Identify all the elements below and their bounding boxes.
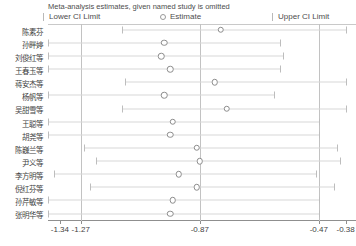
estimate-marker — [176, 171, 183, 178]
upper-ci-cap — [334, 184, 335, 191]
study-label-column: 陈素芬孙畔婷刘俊红等王春玉等蒋安杰等杨帆等吴甜雪等王聪等胡尧等陈巍兰等尹义等李方… — [0, 24, 46, 221]
plot-row — [48, 50, 356, 62]
estimate-marker — [167, 66, 174, 73]
upper-ci-cap — [337, 144, 338, 151]
axis-tick-label: -0.47 — [310, 225, 328, 234]
tick-marker-icon — [43, 13, 44, 21]
forest-plot-root: Meta-analysis estimates, given named stu… — [0, 0, 356, 246]
study-label: 张明华等 — [15, 209, 43, 220]
upper-ci-cap — [319, 210, 320, 217]
upper-ci-cap — [319, 197, 320, 204]
upper-ci-cap — [316, 171, 317, 178]
estimate-marker — [211, 79, 218, 86]
confidence-interval-line — [122, 29, 345, 30]
upper-ci-cap — [346, 105, 347, 112]
lower-ci-cap — [48, 53, 49, 60]
lower-ci-cap — [48, 92, 49, 99]
study-label: 孙畔婷 — [22, 38, 43, 49]
plot-row — [48, 208, 356, 220]
upper-ci-cap — [346, 79, 347, 86]
lower-ci-cap — [48, 39, 49, 46]
axis-tick — [81, 221, 82, 224]
confidence-interval-line — [48, 121, 319, 122]
estimate-marker — [161, 92, 168, 99]
study-label: 蒋安杰等 — [15, 78, 43, 89]
plot-row — [48, 103, 356, 115]
plot-row — [48, 116, 356, 128]
lower-ci-cap — [84, 144, 85, 151]
legend-label-upper-ci: Upper CI Limit — [278, 12, 329, 21]
plot-row — [48, 168, 356, 180]
confidence-interval-line — [48, 134, 319, 135]
plot-row — [48, 90, 356, 102]
lower-ci-cap — [90, 184, 91, 191]
x-axis: -1.34-1.27-0.87-0.47-0.38 — [48, 221, 356, 246]
legend-label-estimate: Estimate — [170, 12, 201, 21]
axis-tick — [200, 221, 201, 224]
legend-item-estimate: Estimate — [160, 12, 201, 21]
axis-tick-label: -0.87 — [191, 225, 209, 234]
estimate-marker — [170, 197, 177, 204]
lower-ci-cap — [48, 197, 49, 204]
lower-ci-cap — [96, 158, 97, 165]
axis-tick — [346, 221, 347, 224]
plot-row — [48, 155, 356, 167]
plot-row — [48, 129, 356, 141]
plot-row — [48, 77, 356, 89]
estimate-marker — [223, 105, 230, 112]
upper-ci-cap — [280, 66, 281, 73]
plot-row — [48, 195, 356, 207]
legend-item-upper-ci: Upper CI Limit — [272, 12, 329, 21]
estimate-marker — [161, 40, 168, 47]
legend-item-lower-ci: Lower CI Limit — [43, 12, 100, 21]
lower-ci-cap — [48, 131, 49, 138]
study-label: 陈巍兰等 — [15, 143, 43, 154]
legend-label-lower-ci: Lower CI Limit — [49, 12, 100, 21]
lower-ci-cap — [48, 210, 49, 217]
confidence-interval-line — [122, 108, 345, 109]
study-label: 倪红芬等 — [15, 183, 43, 194]
upper-ci-cap — [319, 118, 320, 125]
study-label: 吴甜雪等 — [15, 104, 43, 115]
axis-tick-label: -0.38 — [336, 225, 354, 234]
plot-row — [48, 37, 356, 49]
confidence-interval-line — [48, 213, 319, 214]
study-label: 王春玉等 — [15, 64, 43, 75]
study-label: 杨帆等 — [22, 91, 43, 102]
estimate-marker — [197, 158, 204, 165]
lower-ci-cap — [48, 118, 49, 125]
confidence-interval-line — [90, 187, 334, 188]
confidence-interval-line — [48, 200, 319, 201]
upper-ci-cap — [319, 131, 320, 138]
study-label: 孙芹敏等 — [15, 196, 43, 207]
estimate-marker — [167, 132, 174, 139]
lower-ci-cap — [122, 26, 123, 33]
plot-row — [48, 142, 356, 154]
study-label: 刘俊红等 — [15, 51, 43, 62]
page-title: Meta-analysis estimates, given named stu… — [48, 2, 230, 11]
upper-ci-cap — [346, 26, 347, 33]
axis-tick-label: -1.34 — [51, 225, 69, 234]
study-label: 胡尧等 — [22, 130, 43, 141]
confidence-interval-line — [96, 161, 340, 162]
plot-row — [48, 24, 356, 36]
axis-tick — [60, 221, 61, 224]
confidence-interval-line — [54, 174, 316, 175]
lower-ci-cap — [125, 79, 126, 86]
estimate-marker — [217, 27, 224, 34]
plot-row — [48, 63, 356, 75]
tick-marker-icon — [272, 13, 273, 21]
lower-ci-cap — [48, 66, 49, 73]
study-label: 陈素芬 — [22, 25, 43, 36]
study-label: 尹义等 — [22, 156, 43, 167]
lower-ci-cap — [54, 171, 55, 178]
estimate-marker — [170, 118, 177, 125]
upper-ci-cap — [283, 53, 284, 60]
upper-ci-cap — [274, 92, 275, 99]
upper-ci-cap — [340, 158, 341, 165]
upper-ci-cap — [280, 39, 281, 46]
study-label: 王聪等 — [22, 117, 43, 128]
axis-tick — [319, 221, 320, 224]
study-label: 李方明等 — [15, 170, 43, 181]
confidence-interval-line — [84, 147, 337, 148]
